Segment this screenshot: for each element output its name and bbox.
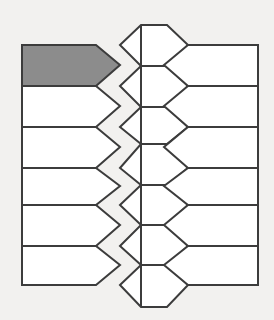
left-column-cell [22,246,120,285]
hexagonal-tessellation-diagram: Hexagonal tessellation grid [0,0,274,320]
shaded-cell [22,45,120,86]
left-column-cell [22,205,120,246]
left-column-cell [22,168,120,205]
left-column-cell [22,127,120,168]
left-column-cell [22,86,120,127]
figure-container: Hexagonal tessellation grid [0,0,274,320]
cell-group [22,25,258,307]
